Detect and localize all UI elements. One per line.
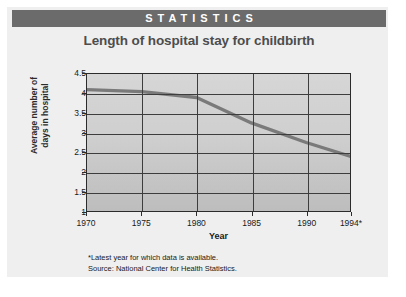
x-tick-mark: [196, 212, 197, 216]
section-banner: STATISTICS: [12, 10, 386, 27]
statistics-figure-page: STATISTICS Length of hospital stay for c…: [0, 0, 406, 297]
footnote-source: Source: National Center for Health Stati…: [88, 263, 237, 274]
x-tick-mark: [307, 212, 308, 216]
x-tick-mark: [141, 212, 142, 216]
x-tick-label: 1990: [287, 218, 327, 228]
gridline-vertical: [253, 74, 254, 211]
y-axis-title: Average number of days in hospital: [29, 61, 50, 171]
gridline-vertical: [197, 74, 198, 211]
footnotes: *Latest year for which data is available…: [88, 252, 237, 274]
chart-title: Length of hospital stay for childbirth: [12, 33, 386, 48]
x-tick-label: 1970: [66, 218, 106, 228]
x-tick-label: 1994*: [331, 218, 371, 228]
gridline-vertical: [308, 74, 309, 211]
gridline-vertical: [142, 74, 143, 211]
x-tick-label: 1975: [121, 218, 161, 228]
gridline-horizontal: [87, 114, 350, 115]
x-tick-mark: [252, 212, 253, 216]
x-axis-title: Year: [86, 231, 351, 241]
x-tick-label: 1980: [176, 218, 216, 228]
gridline-horizontal: [87, 134, 350, 135]
x-tick-label: 1985: [232, 218, 272, 228]
x-tick-mark: [351, 212, 352, 216]
gridline-horizontal: [87, 173, 350, 174]
footnote-asterisk: *Latest year for which data is available…: [88, 252, 237, 263]
plot-area: [86, 73, 351, 212]
gridline-horizontal: [87, 94, 350, 95]
x-tick-mark: [86, 212, 87, 216]
y-axis-title-line-2: days in hospital: [39, 61, 50, 171]
gridline-horizontal: [87, 193, 350, 194]
gridline-horizontal: [87, 153, 350, 154]
y-axis-ticks: 4.543.532.521.51: [52, 73, 86, 212]
y-axis-title-line-1: Average number of: [29, 61, 40, 171]
